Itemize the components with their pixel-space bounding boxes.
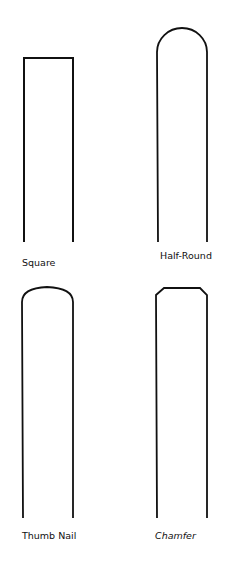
chamfer-label: Chamfer — [155, 530, 196, 541]
chamfer-profile-shape — [156, 288, 207, 518]
edge-profiles-diagram — [0, 0, 229, 565]
half-round-profile-shape — [157, 28, 207, 242]
thumb-nail-profile-shape — [22, 287, 73, 518]
square-label: Square — [22, 257, 55, 268]
thumb-nail-label: Thumb Nail — [22, 530, 76, 541]
square-profile-shape — [24, 58, 73, 242]
half-round-label: Half-Round — [160, 250, 212, 261]
